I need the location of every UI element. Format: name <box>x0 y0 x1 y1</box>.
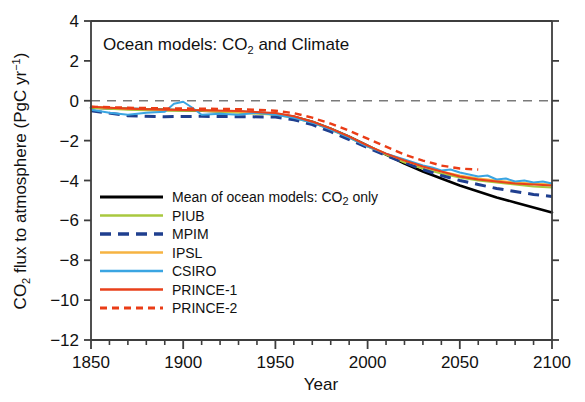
legend-label-mpim: MPIM <box>172 226 209 242</box>
y-tick-label: 4 <box>70 12 79 31</box>
legend-label-prince-2: PRINCE-2 <box>172 300 238 316</box>
y-tick-label: −2 <box>60 132 79 151</box>
y-tick-label: −10 <box>50 291 79 310</box>
x-tick-label: 2100 <box>533 353 571 372</box>
x-tick-label: 1950 <box>256 353 294 372</box>
x-tick-label: 2000 <box>349 353 387 372</box>
y-tick-label: −8 <box>60 251 79 270</box>
co2-flux-line-chart: 185019001950200020502100 420−2−4−6−8−10−… <box>0 0 585 402</box>
y-tick-label: 2 <box>70 52 79 71</box>
y-tick-label: 0 <box>70 92 79 111</box>
chart-figure: 185019001950200020502100 420−2−4−6−8−10−… <box>0 0 585 402</box>
y-tick-label: −12 <box>50 331 79 350</box>
y-axis-title: CO2 flux to atmosphere (PgC yr−1) <box>10 53 32 310</box>
x-tick-label: 1850 <box>72 353 110 372</box>
x-axis-title: Year <box>304 375 339 394</box>
legend-label-prince-1: PRINCE-1 <box>172 282 238 298</box>
y-tick-label: −4 <box>60 172 79 191</box>
y-tick-label: −6 <box>60 211 79 230</box>
legend-label-piub: PIUB <box>172 208 205 224</box>
plot-title: Ocean models: CO2 and Climate <box>103 35 349 56</box>
x-tick-label: 1900 <box>164 353 202 372</box>
legend-label-ipsl: IPSL <box>172 245 203 261</box>
legend-label-csiro: CSIRO <box>172 263 216 279</box>
x-tick-label: 2050 <box>441 353 479 372</box>
